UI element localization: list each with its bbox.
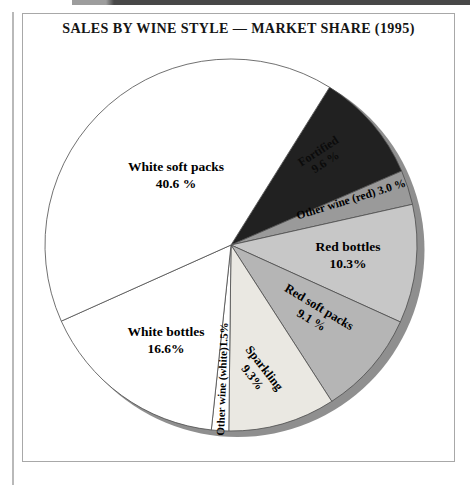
slice-label-red-bottles: Red bottles 10.3% xyxy=(316,238,381,272)
slice-label-white-bottles: White bottles 16.6% xyxy=(128,323,205,357)
slice-pct: 16.6% xyxy=(128,340,205,357)
slice-name: Red bottles xyxy=(316,238,381,255)
pie-chart xyxy=(0,0,470,485)
slice-pct: 40.6 % xyxy=(128,175,224,192)
slice-label-white-soft-packs: White soft packs 40.6 % xyxy=(128,158,224,192)
slice-pct: 10.3% xyxy=(316,255,381,272)
slice-name: White bottles xyxy=(128,323,205,340)
slice-name: White soft packs xyxy=(128,158,224,175)
